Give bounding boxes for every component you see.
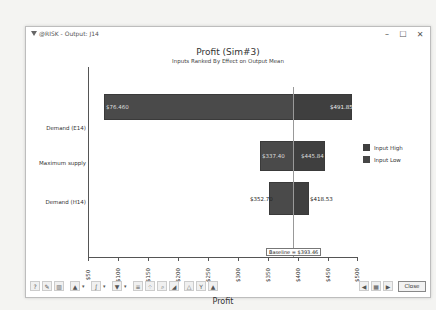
legend-swatch xyxy=(363,144,370,151)
prev-icon[interactable]: ◀ xyxy=(359,281,369,291)
x-tick xyxy=(88,258,89,261)
x-tick xyxy=(328,258,329,261)
chart-subtitle: Inputs Ranked By Effect on Output Mean xyxy=(26,58,430,64)
x-tick xyxy=(118,258,119,261)
help-icon[interactable]: ? xyxy=(30,281,40,291)
fork-icon[interactable]: Y xyxy=(196,281,206,291)
close-window-button[interactable]: ✕ xyxy=(413,29,427,41)
window-title: @RISK - Output: J14 xyxy=(39,30,99,37)
tornado-plot: Demand (E14) Maximum supply Demand (H14)… xyxy=(88,67,358,267)
maximize-button[interactable]: ☐ xyxy=(396,29,410,41)
baseline-line xyxy=(293,87,294,257)
chevron-down-icon[interactable]: ▾ xyxy=(103,283,109,289)
area-icon[interactable]: ◢ xyxy=(169,281,179,291)
x-tick xyxy=(178,258,179,261)
chart-title: Profit (Sim#3) xyxy=(26,47,430,57)
category-label: Demand (H14) xyxy=(46,199,87,205)
histogram-icon[interactable]: ▲ xyxy=(70,281,80,291)
graph-icon[interactable]: ▦ xyxy=(371,281,381,291)
bar-high-label: $418.53 xyxy=(310,196,333,202)
baseline-label: Baseline = $393.46 xyxy=(266,248,321,256)
stats-icon[interactable]: ≡ xyxy=(133,281,143,291)
category-label: Maximum supply xyxy=(39,160,86,166)
legend-item-low: Input Low xyxy=(363,156,403,163)
x-tick xyxy=(268,258,269,261)
risk-funnel-icon xyxy=(31,31,37,36)
minimize-button[interactable]: – xyxy=(380,29,394,41)
edit-icon[interactable]: ✎ xyxy=(42,281,52,291)
chevron-down-icon[interactable]: ▾ xyxy=(82,283,88,289)
bar-low-label: $352.70 xyxy=(250,196,273,202)
legend: Input High Input Low xyxy=(363,144,403,168)
curve-icon[interactable]: ∫ xyxy=(91,281,101,291)
y-axis xyxy=(88,67,89,257)
x-tick xyxy=(148,258,149,261)
x-axis xyxy=(88,257,358,258)
close-button[interactable]: Close xyxy=(398,281,426,292)
bar-demand-h14[interactable] xyxy=(269,182,309,215)
bar-low-label: $337.40 xyxy=(262,153,285,159)
x-tick xyxy=(208,258,209,261)
bottom-toolbar: ? ✎ ▥ ▲ ▾ ∫ ▾ ▼ ▾ ≡ ⁘ ⌕ ◢ △ Y ▲ ◀ ▦ ▶ Cl… xyxy=(30,279,426,293)
legend-label: Input Low xyxy=(374,157,401,163)
x-tick xyxy=(298,258,299,261)
zoom-icon[interactable]: ⌕ xyxy=(157,281,167,291)
title-bar: @RISK - Output: J14 – ☐ ✕ xyxy=(26,27,430,43)
chart-type-icon[interactable]: ▥ xyxy=(54,281,64,291)
legend-label: Input High xyxy=(374,145,403,151)
bar-demand-e14[interactable] xyxy=(104,94,352,120)
x-tick xyxy=(238,258,239,261)
chevron-down-icon[interactable]: ▾ xyxy=(124,283,130,289)
x-axis-label: Profit xyxy=(88,297,358,306)
x-tick xyxy=(357,258,358,261)
legend-item-high: Input High xyxy=(363,144,403,151)
next-icon[interactable]: ▶ xyxy=(383,281,393,291)
triangle-icon[interactable]: △ xyxy=(184,281,194,291)
scatter-icon[interactable]: ⁘ xyxy=(145,281,155,291)
category-label: Demand (E14) xyxy=(46,125,86,131)
bar-high-label: $491.85 xyxy=(330,104,353,110)
bar-low-label: $76.460 xyxy=(106,104,129,110)
mountain-icon[interactable]: ▲ xyxy=(208,281,218,291)
bar-high-label: $445.84 xyxy=(301,153,324,159)
output-window: @RISK - Output: J14 – ☐ ✕ Profit (Sim#3)… xyxy=(25,26,431,298)
bar-high-segment xyxy=(293,183,308,214)
legend-swatch xyxy=(363,156,370,163)
filter-icon[interactable]: ▼ xyxy=(112,281,122,291)
